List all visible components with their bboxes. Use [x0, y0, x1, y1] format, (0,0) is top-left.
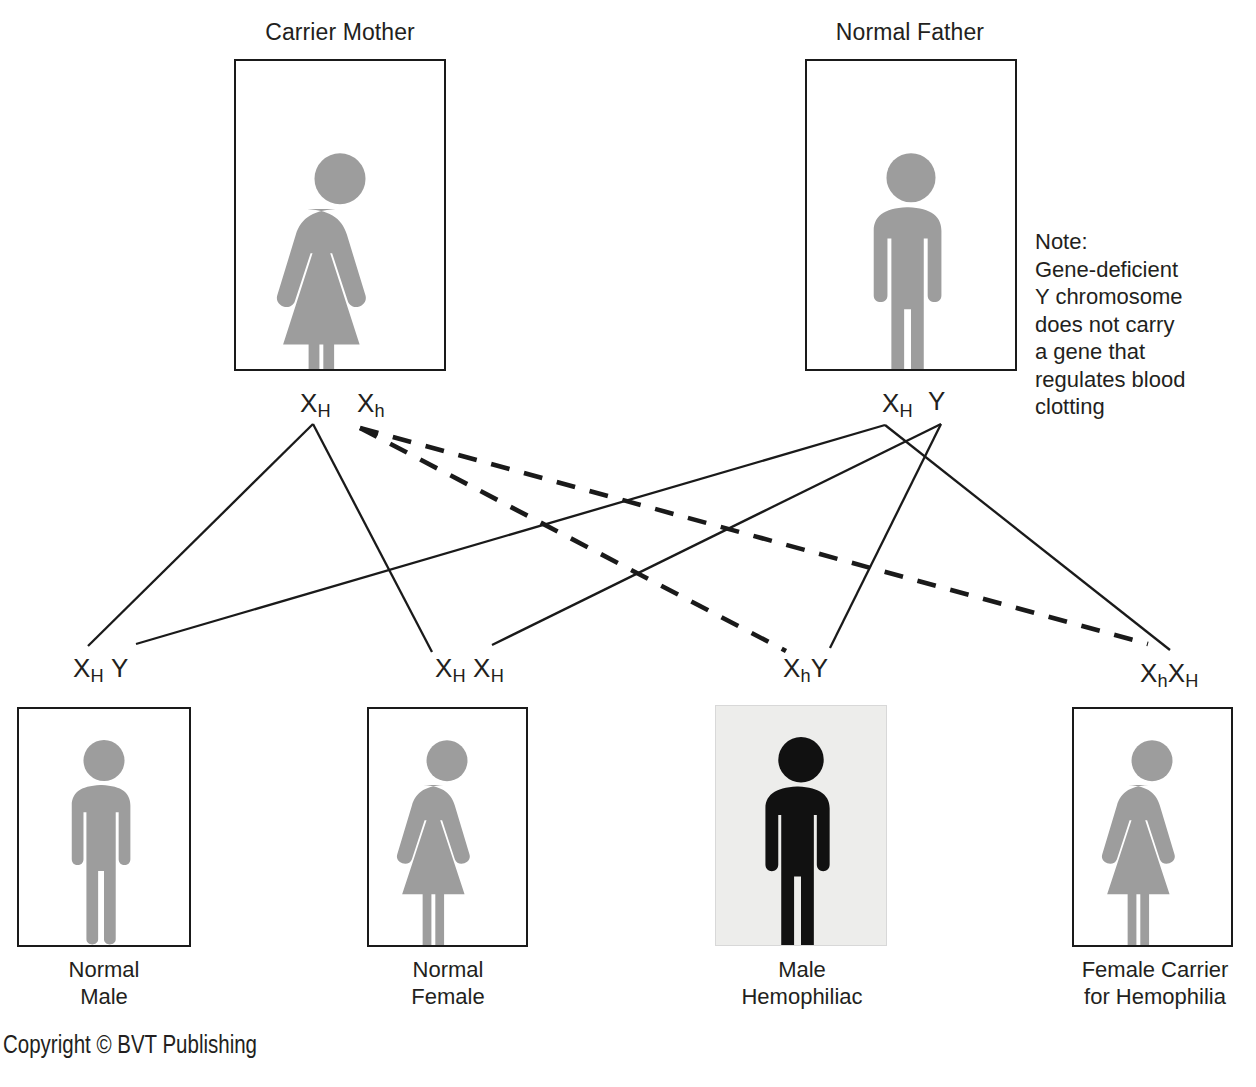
genotype-mother-allele-1: XH — [300, 388, 331, 422]
line-father-Y-to-child-2 — [492, 424, 941, 645]
line-mother-XH-to-child-2 — [313, 424, 432, 652]
caption-female-carrier: Female Carrier for Hemophilia — [1060, 956, 1250, 1010]
genotype-father-allele-2: Y — [928, 386, 946, 417]
figure-box-normal-father — [805, 59, 1017, 371]
genotype-child-2: XH XH — [435, 653, 504, 687]
figure-box-female-carrier — [1072, 707, 1233, 947]
female-pictogram-mother — [236, 61, 444, 369]
caption-normal-male: Normal Male — [24, 956, 184, 1010]
genotype-father-allele-1: XH — [882, 388, 913, 422]
male-pictogram-father — [807, 61, 1015, 369]
figure-box-normal-male — [17, 707, 191, 947]
genotype-child-3: XhY — [783, 653, 828, 687]
genotype-child-1: XH Y — [73, 653, 129, 687]
genotype-mother-allele-2: Xh — [357, 388, 385, 422]
parent-title-normal-father: Normal Father — [802, 19, 1018, 46]
male-pictogram-normal-male — [19, 709, 189, 945]
line-father-XH-to-child-1 — [136, 425, 885, 644]
female-pictogram-female-carrier — [1074, 709, 1231, 945]
female-pictogram-normal-female — [369, 709, 526, 945]
figure-box-normal-female — [367, 707, 528, 947]
male-pictogram-hemophiliac — [716, 706, 886, 945]
line-mother-Xh-to-child-4 — [360, 428, 1148, 644]
line-father-XH-to-child-4 — [885, 425, 1170, 650]
note-text: Note: Gene-deficient Y chromosome does n… — [1035, 228, 1250, 421]
line-father-Y-to-child-3 — [830, 424, 941, 648]
caption-normal-female: Normal Female — [368, 956, 528, 1010]
genotype-child-4: XhXH — [1140, 658, 1198, 692]
parent-title-carrier-mother: Carrier Mother — [229, 19, 451, 46]
caption-male-hemophiliac: Male Hemophiliac — [721, 956, 883, 1010]
copyright-notice: Copyright © BVT Publishing — [3, 1030, 257, 1059]
line-mother-Xh-to-child-3 — [360, 428, 786, 651]
hemophilia-inheritance-diagram: Carrier Mother Normal Father Note: Gene-… — [0, 0, 1256, 1087]
figure-box-male-hemophiliac — [715, 705, 887, 946]
line-mother-XH-to-child-1 — [88, 424, 313, 646]
figure-box-carrier-mother — [234, 59, 446, 371]
